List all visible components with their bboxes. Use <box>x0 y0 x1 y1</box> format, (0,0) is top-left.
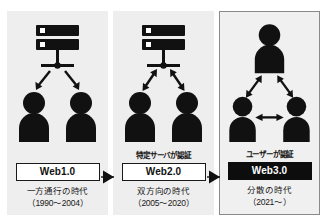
person-icon-bottom-left <box>229 97 255 142</box>
era-label-web1: 一方通行の時代 <box>7 185 108 197</box>
panel-web1: Web1.0 一方通行の時代 （1990〜2004） <box>7 11 108 215</box>
person-icon-right <box>172 92 202 142</box>
years-label-web3: （2021〜） <box>220 196 319 208</box>
web-version-box-web2[interactable]: Web2.0 <box>122 163 206 181</box>
topology-diagram-web3 <box>220 12 319 162</box>
years-label-web1: （1990〜2004） <box>7 197 108 209</box>
captions-web2: 特定サーバが認証 Web2.0 双方向の時代 （2005〜2020） <box>113 151 214 209</box>
auth-label-web3: ユーザーが認証 <box>220 150 319 160</box>
connector-arrow-web1-web2 <box>101 170 115 184</box>
person-icon-left <box>19 92 49 142</box>
arrow-double-headed-icon-left <box>143 69 158 91</box>
panel-web2: 特定サーバが認証 Web2.0 双方向の時代 （2005〜2020） <box>113 11 214 215</box>
person-icon-top <box>255 24 284 73</box>
server-stack-icon <box>36 25 79 69</box>
years-label-web2: （2005〜2020） <box>113 197 214 209</box>
person-icon-bottom-right <box>283 97 309 142</box>
topology-diagram-web1 <box>7 11 108 161</box>
auth-label-web2: 特定サーバが認証 <box>113 151 214 161</box>
era-label-web3: 分散の時代 <box>220 184 319 196</box>
person-icon-right <box>66 92 96 142</box>
person-icon-left <box>125 92 155 142</box>
arrow-double-headed-icon-bottom <box>255 114 283 121</box>
captions-web3: ユーザーが認証 Web3.0 分散の時代 （2021〜） <box>220 150 319 208</box>
server-stack-icon <box>142 25 185 69</box>
web-version-box-web1[interactable]: Web1.0 <box>16 163 100 181</box>
arrow-double-headed-icon-right <box>170 69 185 91</box>
arrow-down-icon-left <box>35 71 50 90</box>
arrow-down-icon-right <box>65 71 80 90</box>
panel-web3: ユーザーが認証 Web3.0 分散の時代 （2021〜） <box>219 11 320 215</box>
topology-diagram-web2 <box>113 11 214 161</box>
web-evolution-diagram: Web1.0 一方通行の時代 （1990〜2004） <box>0 0 327 221</box>
web-version-box-web3[interactable]: Web3.0 <box>228 162 312 180</box>
captions-web1: Web1.0 一方通行の時代 （1990〜2004） <box>7 151 108 209</box>
connector-arrow-web2-web3 <box>207 170 221 184</box>
cropped-top-text <box>4 0 204 9</box>
era-label-web2: 双方向の時代 <box>113 185 214 197</box>
arrow-double-headed-icon-top-left <box>246 75 262 98</box>
arrow-double-headed-icon-top-right <box>277 75 293 98</box>
